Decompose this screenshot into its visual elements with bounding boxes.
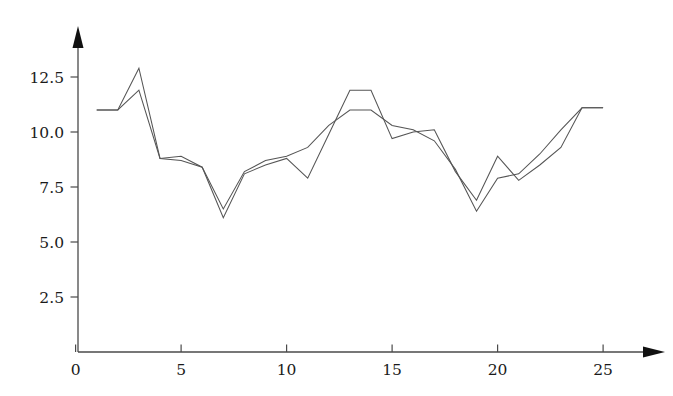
x-tick-label: 0 <box>71 361 81 379</box>
y-tick-label: 7.5 <box>39 179 64 197</box>
y-tick-label: 12.5 <box>29 69 64 87</box>
line-chart-plot: 2.55.07.510.012.5 0510152025 <box>0 0 673 396</box>
x-tick-label: 10 <box>277 361 297 379</box>
y-tick-label: 2.5 <box>39 289 64 307</box>
x-axis-arrow-icon <box>643 347 665 358</box>
y-axis-ticks: 2.55.07.510.012.5 <box>29 69 78 307</box>
data-series-group <box>97 68 603 218</box>
y-tick-label: 10.0 <box>29 124 64 142</box>
y-axis-arrow-icon <box>73 26 84 48</box>
series-line-series-1 <box>97 68 603 218</box>
chart-root: 2.55.07.510.012.5 0510152025 <box>0 0 673 396</box>
axes-group <box>73 26 666 358</box>
x-tick-label: 15 <box>382 361 402 379</box>
x-tick-label: 5 <box>176 361 186 379</box>
x-axis-ticks: 0510152025 <box>71 345 613 380</box>
series-line-series-2 <box>97 90 603 211</box>
y-tick-label: 5.0 <box>39 234 64 252</box>
x-tick-label: 20 <box>488 361 508 379</box>
x-tick-label: 25 <box>593 361 613 379</box>
